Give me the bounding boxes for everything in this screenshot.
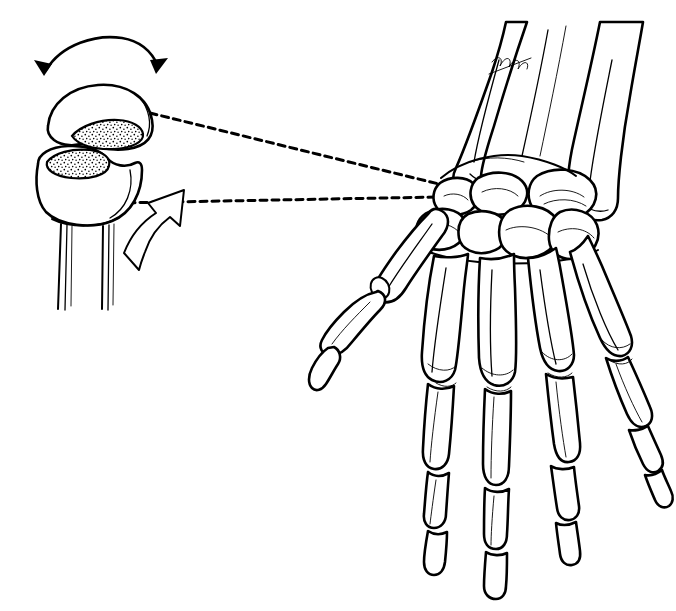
- shaft-line-4: [102, 226, 103, 309]
- index-middle-phalanx: [424, 472, 449, 528]
- anatomical-figure: Trapeziometacarpal (thumb carpometacarpa…: [0, 0, 676, 611]
- middle-proximal-phalanx: [483, 389, 511, 485]
- lower-bone-articular-facet: [47, 150, 110, 179]
- middle-distal-phalanx: [484, 552, 507, 599]
- third-metacarpal: [478, 254, 516, 386]
- illustration-canvas: [0, 0, 676, 611]
- index-distal-phalanx: [424, 531, 447, 575]
- middle-middle-phalanx: [484, 488, 509, 549]
- index-proximal-phalanx: [423, 384, 454, 469]
